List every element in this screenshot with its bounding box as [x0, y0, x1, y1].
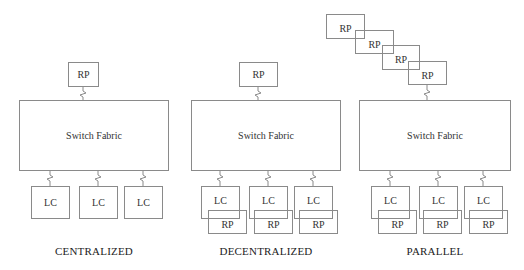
line-card-box: LC [79, 186, 118, 219]
lc-label: LC [384, 195, 397, 206]
route-processor-box: RP [239, 62, 278, 87]
rp-label: RP [312, 219, 324, 230]
rp-label: RP [368, 39, 380, 50]
rp-label: RP [421, 70, 433, 81]
rp-label: RP [252, 69, 264, 80]
caption-centralized: CENTRALIZED [19, 245, 169, 257]
switch-fabric-box: Switch Fabric [359, 100, 511, 171]
line-card-rp-box: RP [254, 210, 293, 234]
rp-label: RP [221, 219, 233, 230]
rp-label: RP [391, 219, 403, 230]
rp-label: RP [436, 219, 448, 230]
switch-fabric-label: Switch Fabric [407, 130, 463, 141]
line-card-box: LC [31, 186, 70, 219]
lc-label: LC [214, 195, 227, 206]
line-card-box: LC [124, 186, 163, 219]
line-card-rp-box: RP [469, 210, 508, 234]
line-card-rp-box: RP [208, 210, 247, 234]
rp-label: RP [267, 219, 279, 230]
switch-fabric-label: Switch Fabric [66, 130, 122, 141]
switch-fabric-box: Switch Fabric [191, 100, 341, 171]
lc-label: LC [44, 197, 57, 208]
line-card-rp-box: RP [423, 210, 462, 234]
rp-label: RP [482, 219, 494, 230]
rp-label: RP [395, 54, 407, 65]
caption-decentralized: DECENTRALIZED [191, 245, 341, 257]
lc-label: LC [137, 197, 150, 208]
switch-fabric-box: Switch Fabric [19, 100, 169, 171]
line-card-rp-box: RP [299, 210, 338, 234]
route-processor-box: RP [68, 62, 99, 87]
caption-parallel: PARALLEL [359, 245, 511, 257]
rp-stack-box: RP [408, 61, 447, 85]
rp-label: RP [77, 69, 89, 80]
line-card-rp-box: RP [378, 210, 417, 234]
rp-label: RP [339, 23, 351, 34]
lc-label: LC [307, 195, 320, 206]
lc-label: LC [262, 195, 275, 206]
lc-label: LC [92, 197, 105, 208]
switch-fabric-label: Switch Fabric [238, 130, 294, 141]
lc-label: LC [432, 195, 445, 206]
lc-label: LC [477, 195, 490, 206]
